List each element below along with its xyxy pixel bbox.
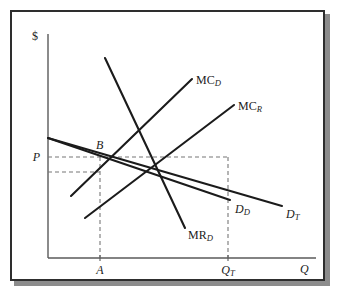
diagram-canvas	[0, 0, 340, 302]
curve-label-mc-r: MCR	[238, 100, 262, 114]
curve-label-d-t-subscript: T	[295, 212, 300, 222]
curve-label-mc-d-base: MC	[196, 73, 215, 87]
x-tick-label-a: A	[96, 264, 103, 276]
x-axis-label: Q	[300, 263, 309, 275]
curve-label-d-d-base: D	[235, 202, 244, 216]
x-axis-label-base: Q	[300, 262, 309, 276]
curve-label-d-d-subscript: D	[244, 207, 250, 217]
curve-label-mr-d: MRD	[188, 229, 213, 243]
curve-label-mc-r-base: MC	[238, 99, 257, 113]
x-tick-label-qt-subscript: T	[230, 268, 235, 278]
x-tick-label-qt-base: Q	[221, 263, 230, 277]
curve-label-d-t: DT	[286, 208, 299, 222]
y-axis-label-base: $	[32, 29, 38, 43]
curve-label-mc-d-subscript: D	[215, 78, 221, 88]
curve-label-d-d: DD	[235, 203, 250, 217]
curve-label-d-t-base: D	[286, 207, 295, 221]
y-tick-label-p-base: P	[33, 150, 40, 164]
curve-label-mr-d-base: MR	[188, 228, 207, 242]
curve-mc-d	[71, 79, 192, 196]
x-tick-label-a-base: A	[96, 263, 103, 277]
point-label-b: B	[96, 139, 103, 151]
point-label-b-base: B	[96, 138, 103, 152]
curve-label-mr-d-subscript: D	[207, 233, 213, 243]
curve-label-mc-r-subscript: R	[257, 104, 262, 114]
y-axis-label: $	[32, 30, 38, 42]
diagram-svg	[0, 0, 340, 302]
curve-label-mc-d: MCD	[196, 74, 221, 88]
y-tick-label-p: P	[33, 151, 40, 163]
x-tick-label-qt: QT	[221, 264, 234, 278]
curve-mr-d	[105, 58, 185, 228]
figure-root: $QPAQTBMRDMCDMCRDDDT	[0, 0, 340, 302]
